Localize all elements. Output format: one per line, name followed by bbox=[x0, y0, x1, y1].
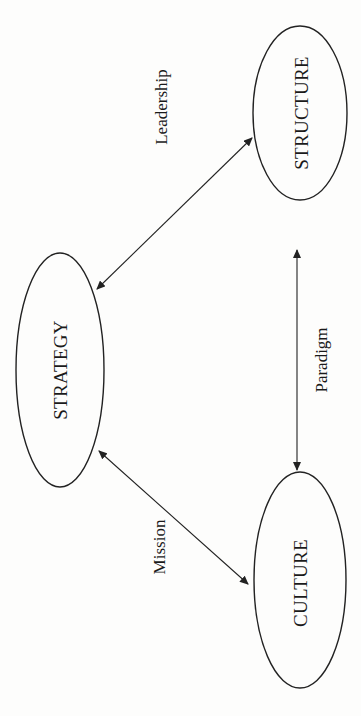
page: STRATEGY STRUCTURE CULTURE Leadership Mi… bbox=[0, 0, 361, 716]
node-structure: STRUCTURE bbox=[253, 26, 347, 200]
structure-label: STRUCTURE bbox=[291, 56, 312, 170]
node-strategy: STRATEGY bbox=[16, 253, 104, 487]
node-culture: CULTURE bbox=[254, 472, 346, 688]
strategy-label: STRATEGY bbox=[50, 320, 71, 420]
leadership-arrow bbox=[97, 138, 252, 289]
leadership-label: Leadership bbox=[152, 69, 171, 145]
edge-leadership: Leadership bbox=[97, 69, 252, 289]
strategy-structure-culture-diagram: STRATEGY STRUCTURE CULTURE Leadership Mi… bbox=[0, 0, 361, 716]
edge-mission: Mission bbox=[99, 451, 248, 584]
paradigm-label: Paradigm bbox=[312, 327, 331, 392]
mission-arrow bbox=[99, 451, 248, 584]
mission-label: Mission bbox=[150, 519, 169, 574]
edge-paradigm: Paradigm bbox=[297, 250, 331, 470]
culture-label: CULTURE bbox=[290, 539, 311, 627]
